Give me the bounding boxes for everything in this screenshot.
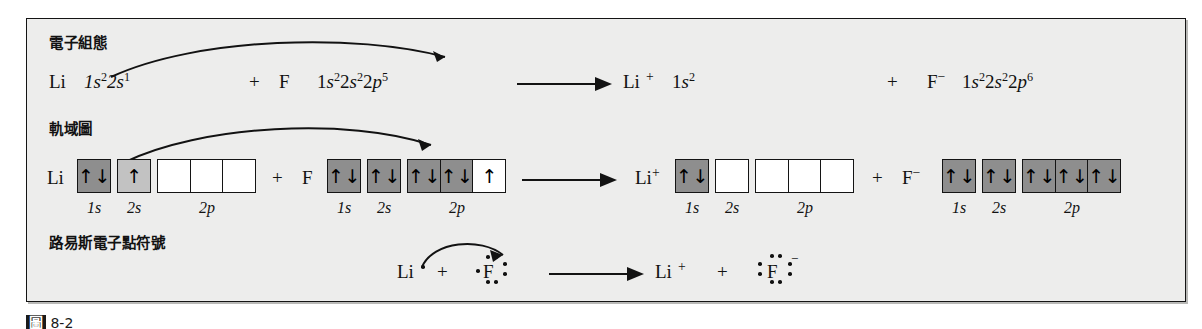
lewis-reactant-li: Li <box>397 261 414 283</box>
lewis-li-symbol: Li <box>397 261 414 282</box>
figure-page: 電子組態 Li 1s22s1 + F 1s22s22p5 Li+ 1s2 + F… <box>0 0 1202 329</box>
orbital-box-li-1s: ↑↓ <box>77 159 111 193</box>
lewis-plus-1: + <box>437 261 448 283</box>
lewis-dot-fa-bottom-2 <box>778 280 782 284</box>
orbital-box-li-2s: ↑ <box>117 159 151 193</box>
row-label-electron-configuration: 電子組態 <box>49 31 107 52</box>
figure-frame: 電子組態 Li 1s22s1 + F 1s22s22p5 Li+ 1s2 + F… <box>26 18 1186 302</box>
orbital-box-li-cation-2p-1 <box>755 159 789 193</box>
lewis-reactant-f: F <box>475 261 494 283</box>
orbital-box-f-anion-2p-3: ↑↓ <box>1087 159 1121 193</box>
lewis-dot-fa-top-2 <box>778 254 782 258</box>
lewis-dot-fa-bottom-1 <box>770 280 774 284</box>
orbital-label-f-anion-2p: 2p <box>1022 199 1122 217</box>
ec-reactant-f-config: 1s22s22p5 <box>317 71 388 93</box>
od-plus-1: + <box>272 167 283 189</box>
od-plus-2: + <box>872 167 883 189</box>
lewis-dot-f-bottom-1 <box>486 280 490 284</box>
orbital-box-li-2p-3 <box>222 159 256 193</box>
orbital-label-li-1s: 1s <box>77 199 111 217</box>
lewis-dot-f-top-1 <box>486 255 490 259</box>
lewis-product-f: F − <box>757 261 778 283</box>
lewis-product-li: Li+ <box>655 261 686 283</box>
figure-caption: 圖 8-2 <box>26 312 73 329</box>
orbital-label-li-cation-2p: 2p <box>755 199 855 217</box>
orbital-box-li-cation-2s <box>715 159 749 193</box>
lewis-dot-li-right <box>421 265 425 269</box>
ec-reactant-f: F <box>279 71 290 93</box>
lewis-dot-f-right-1 <box>503 262 507 266</box>
od-f-anion-label: F− <box>902 167 920 189</box>
ec-product-f: F− <box>927 71 945 93</box>
orbital-box-li-cation-2p-3 <box>820 159 854 193</box>
orbital-box-f-anion-2s: ↑↓ <box>982 159 1016 193</box>
orbital-label-li-cation-1s: 1s <box>675 199 709 217</box>
od-li-label: Li <box>47 167 64 189</box>
electron-transfer-curved-arrow-row3 <box>419 237 519 271</box>
orbital-label-f-2p: 2p <box>407 199 507 217</box>
orbital-set-li: ↑↓ ↑ <box>77 159 256 193</box>
lewis-dot-f-right-2 <box>503 272 507 276</box>
ec-product-li-config: 1s2 <box>672 71 695 93</box>
orbital-box-f-anion-1s: ↑↓ <box>942 159 976 193</box>
orbital-label-f-anion-1s: 1s <box>942 199 976 217</box>
lewis-dot-fa-left-2 <box>758 272 762 276</box>
figure-caption-text: 8-2 <box>50 315 73 329</box>
lewis-dot-fa-left-1 <box>758 262 762 266</box>
ec-product-f-config: 1s22s22p6 <box>962 71 1033 93</box>
od-reaction-arrow <box>522 173 617 187</box>
orbital-box-f-anion-2p-2: ↑↓ <box>1055 159 1089 193</box>
orbital-label-li-cation-2s: 2s <box>715 199 749 217</box>
lewis-dot-fa-right-2 <box>788 272 792 276</box>
lewis-dot-f-left-1 <box>476 269 480 273</box>
orbital-box-f-2p-1: ↑↓ <box>407 159 441 193</box>
orbital-set-li-cation: ↑↓ <box>675 159 854 193</box>
lewis-dot-f-top-2 <box>494 255 498 259</box>
lewis-dot-fa-top-1 <box>770 254 774 258</box>
ec-reactant-li: Li <box>49 71 66 93</box>
ec-reactant-li-config: 1s22s1 <box>84 71 130 93</box>
od-li-cation-label: Li+ <box>635 167 660 189</box>
orbital-box-f-2p-2: ↑↓ <box>440 159 474 193</box>
od-f-label: F <box>302 167 313 189</box>
lewis-plus-2: + <box>717 261 728 283</box>
row-label-orbital-diagram: 軌域圖 <box>49 117 93 138</box>
lewis-f-anion-symbol: F <box>767 261 778 282</box>
ec-plus-2: + <box>887 71 898 93</box>
ec-reaction-arrow <box>517 77 612 91</box>
orbital-box-li-2p-1 <box>157 159 191 193</box>
orbital-box-f-2p-3: ↑ <box>472 159 506 193</box>
orbital-set-f: ↑↓ ↑↓ ↑↓ ↑↓ ↑ <box>327 159 506 193</box>
orbital-label-f-2s: 2s <box>367 199 401 217</box>
figure-caption-tag: 圖 <box>26 315 46 329</box>
orbital-box-f-anion-2p-1: ↑↓ <box>1022 159 1056 193</box>
row-label-lewis-dot: 路易斯電子點符號 <box>49 231 165 252</box>
orbital-box-li-cation-1s: ↑↓ <box>675 159 709 193</box>
orbital-box-li-cation-2p-2 <box>788 159 822 193</box>
orbital-label-f-1s: 1s <box>327 199 361 217</box>
orbital-label-li-2p: 2p <box>157 199 257 217</box>
ec-product-li: Li+ <box>623 71 654 93</box>
orbital-label-li-2s: 2s <box>117 199 151 217</box>
orbital-box-f-1s: ↑↓ <box>327 159 361 193</box>
orbital-box-f-2s: ↑↓ <box>367 159 401 193</box>
lewis-dot-fa-right-1 <box>788 262 792 266</box>
orbital-set-f-anion: ↑↓ ↑↓ ↑↓ ↑↓ ↑↓ <box>942 159 1121 193</box>
orbital-box-li-2p-2 <box>190 159 224 193</box>
lewis-dot-f-bottom-2 <box>494 280 498 284</box>
lewis-f-symbol: F <box>483 261 494 282</box>
ec-plus-1: + <box>249 71 260 93</box>
lewis-reaction-arrow <box>549 267 644 281</box>
orbital-label-f-anion-2s: 2s <box>982 199 1016 217</box>
